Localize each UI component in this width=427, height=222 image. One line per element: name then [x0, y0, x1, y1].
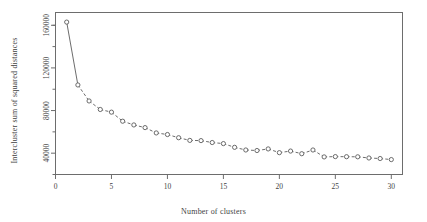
chart-figure: 051015202530 4000080000120000160000 Numb… — [0, 0, 427, 222]
series-point — [165, 132, 169, 136]
y-axis-ticks — [51, 25, 56, 174]
plot-frame — [56, 13, 403, 175]
plot-border — [56, 13, 403, 175]
x-axis-tick-labels: 051015202530 — [54, 182, 396, 191]
series-point — [266, 147, 270, 151]
series-point — [177, 136, 181, 140]
series-point — [109, 110, 113, 114]
elbow-plot: 051015202530 4000080000120000160000 — [0, 0, 427, 222]
y-tick-label: 40000 — [42, 144, 51, 163]
series-point — [232, 145, 236, 149]
series-point — [300, 152, 304, 156]
x-tick-label: 0 — [54, 182, 58, 191]
series-point — [121, 119, 125, 123]
y-tick-label: 120000 — [42, 56, 51, 79]
x-tick-label: 25 — [332, 182, 340, 191]
series-point — [378, 156, 382, 160]
series-point — [132, 123, 136, 127]
y-axis-title: Intercluster sum of squared distances — [10, 21, 19, 181]
series-point — [210, 140, 214, 144]
series-point — [65, 20, 69, 24]
series-point — [311, 148, 315, 152]
y-tick-label: 160000 — [42, 14, 51, 37]
series-point — [389, 157, 393, 161]
series-point — [221, 141, 225, 145]
series-point — [344, 155, 348, 159]
x-axis-ticks — [56, 175, 392, 180]
series-point — [255, 148, 259, 152]
series-point — [244, 148, 248, 152]
y-tick-label: 80000 — [42, 101, 51, 120]
x-tick-label: 20 — [276, 182, 284, 191]
series-point — [277, 151, 281, 155]
series-point — [188, 138, 192, 142]
series-point — [76, 83, 80, 87]
series-point — [98, 107, 102, 111]
series-segment — [67, 22, 78, 85]
x-axis-title: Number of clusters — [0, 207, 427, 216]
series-point — [356, 155, 360, 159]
series-point — [154, 131, 158, 135]
x-tick-label: 15 — [220, 182, 228, 191]
series-point — [288, 149, 292, 153]
x-tick-label: 30 — [388, 182, 396, 191]
x-tick-label: 10 — [164, 182, 172, 191]
series-point — [367, 156, 371, 160]
series-point — [199, 139, 203, 143]
y-axis-tick-labels: 4000080000120000160000 — [42, 14, 51, 163]
data-series — [65, 20, 394, 162]
series-point — [87, 99, 91, 103]
series-point — [143, 126, 147, 130]
x-tick-label: 5 — [110, 182, 114, 191]
series-segment — [78, 85, 89, 101]
series-point — [333, 154, 337, 158]
series-point — [322, 155, 326, 159]
